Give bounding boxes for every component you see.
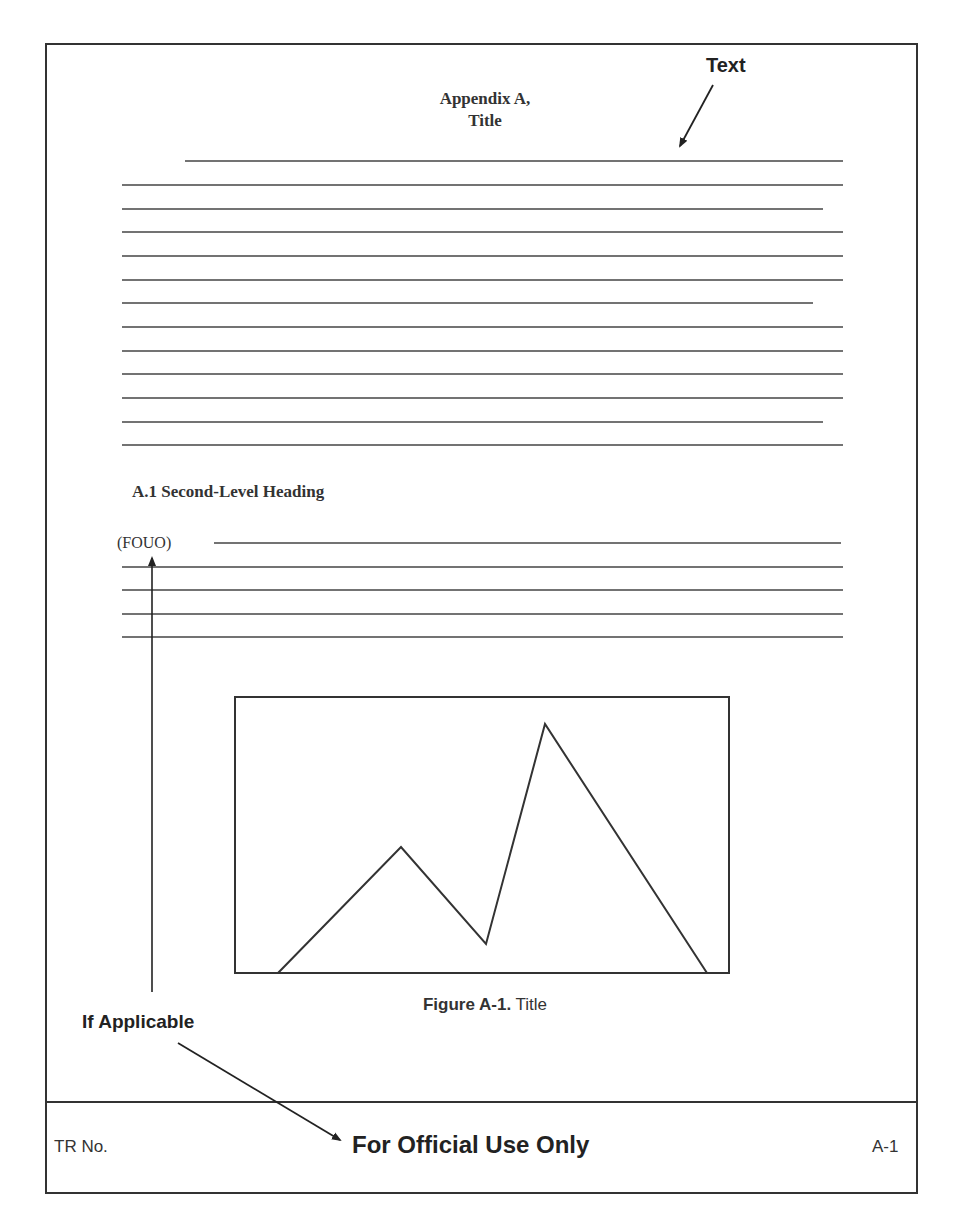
footer-classification: For Official Use Only [352, 1131, 589, 1159]
appendix-title: Appendix A, Title [380, 88, 590, 132]
second-level-heading: A.1 Second-Level Heading [132, 482, 324, 502]
appendix-title-line1: Appendix A, [380, 88, 590, 110]
text-callout-label: Text [706, 54, 746, 77]
appendix-title-line2: Title [380, 110, 590, 132]
text-callout-arrow [680, 85, 713, 146]
if-applicable-down-arrow [178, 1043, 340, 1140]
page-graphics [0, 0, 961, 1231]
footer-report-number: TR No. [54, 1137, 108, 1157]
figure-frame [235, 697, 729, 973]
footer-page-number: A-1 [872, 1137, 898, 1157]
figure-caption-title: Title [511, 995, 547, 1014]
if-applicable-callout: If Applicable [82, 1011, 194, 1033]
figure-caption: Figure A-1. Title [300, 995, 670, 1015]
figure-line-graphic [278, 724, 707, 973]
figure-caption-label: Figure A-1. [423, 995, 511, 1014]
placeholder-text-lines-intro [122, 161, 843, 445]
portion-marking: (FOUO) [117, 534, 171, 552]
placeholder-text-lines-a1 [122, 543, 843, 637]
